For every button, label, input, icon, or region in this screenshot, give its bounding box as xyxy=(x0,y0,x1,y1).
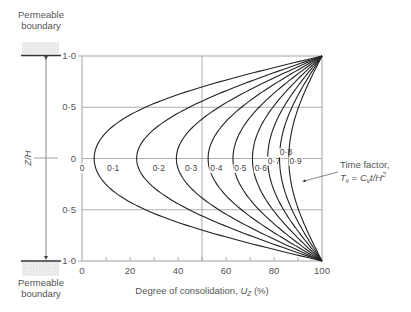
bottom-boundary-label-2: boundary xyxy=(21,288,61,299)
annotation-line1: Time factor, xyxy=(340,159,389,170)
isochrone-label: 0·9 xyxy=(289,156,302,166)
top-boundary: Permeable boundary xyxy=(18,9,64,56)
consolidation-isochrones-chart: Permeable boundary Permeable boundary Z/… xyxy=(0,0,411,312)
isochrone-label: 0 xyxy=(80,163,85,173)
soil-hatch-bottom xyxy=(22,262,59,276)
x-axis-label: Degree of consolidation, UZ (%) xyxy=(135,285,268,297)
isochrone-label: 0·7 xyxy=(268,156,281,166)
top-boundary-label-2: boundary xyxy=(21,20,61,31)
isochrone-label: 0·1 xyxy=(107,163,120,173)
x-tick-label: 100 xyxy=(314,265,330,276)
x-tick-label: 80 xyxy=(269,265,280,276)
y-axis-label: Z/H xyxy=(22,150,33,166)
top-boundary-label-1: Permeable xyxy=(18,9,64,20)
soil-hatch-top xyxy=(22,42,59,54)
x-tick-label: 40 xyxy=(173,265,184,276)
time-factor-annotation: Time factor, Tv = Cvt/H2 xyxy=(304,159,389,184)
isochrone-label: 0·3 xyxy=(185,163,198,173)
y-tick-label: 0·5 xyxy=(62,204,76,215)
isochrone-label: 0·5 xyxy=(234,163,247,173)
annotation-formula: Tv = Cvt/H2 xyxy=(340,171,386,184)
x-tick-label: 20 xyxy=(125,265,136,276)
bottom-boundary: Permeable boundary xyxy=(18,261,64,299)
x-tick-label: 0 xyxy=(79,265,84,276)
bottom-boundary-label-1: Permeable xyxy=(18,277,64,288)
y-tick-label: 1·0 xyxy=(62,50,76,61)
isochrone-label: 0·4 xyxy=(210,163,223,173)
isochrone-label: 0·6 xyxy=(255,163,268,173)
y-tick-label: 1·0 xyxy=(62,255,76,266)
annotation-arrow xyxy=(304,172,338,181)
isochrone-label: 0·2 xyxy=(153,163,166,173)
y-tick-label: 0·5 xyxy=(62,101,76,112)
y-tick-label: 0 xyxy=(71,153,76,164)
x-tick-label: 60 xyxy=(221,265,232,276)
